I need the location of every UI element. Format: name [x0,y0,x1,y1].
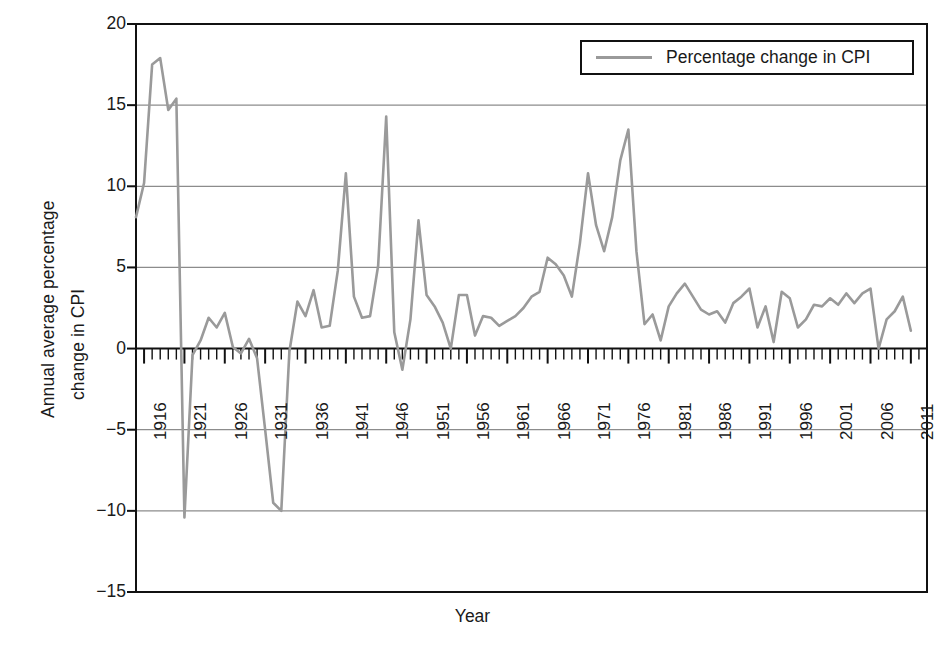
x-tick-label: 1946 [393,402,413,440]
x-tick-label: 1991 [756,402,776,440]
x-tick-label: 2011 [918,403,938,440]
x-tick-label: 1976 [635,402,655,440]
legend-swatch-percentage-change-in-cpi [596,56,652,59]
x-axis-title: Year [0,606,945,627]
x-tick-label: 1931 [272,402,292,440]
x-tick-label: 1916 [151,402,171,440]
x-tick-label: 2006 [878,402,898,440]
legend-label-percentage-change-in-cpi: Percentage change in CPI [666,47,870,68]
x-tick-label: 1926 [232,402,252,440]
x-tick-label: 1956 [474,402,494,440]
x-tick-label: 1961 [514,402,534,440]
chart-legend: Percentage change in CPI [580,40,914,75]
x-tick-label: 1966 [555,402,575,440]
x-tick-label: 2001 [837,402,857,440]
x-tick-label: 1981 [676,402,696,440]
x-tick-label: 1936 [313,402,333,440]
x-tick-label: 1921 [191,402,211,440]
chart-figure: Annual average percentage change in CPI … [0,0,945,652]
x-tick-label: 1971 [595,402,615,440]
x-tick-label: 1996 [797,402,817,440]
x-tick-label: 1951 [434,402,454,440]
x-tick-label: 1986 [716,402,736,440]
x-tick-label: 1941 [353,402,373,440]
x-axis-tick-labels: 1916192119261931193619411946195119561961… [0,0,945,652]
